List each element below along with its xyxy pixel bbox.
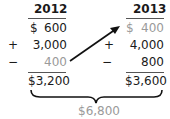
- combined-total: $6,800: [78, 104, 120, 118]
- carryover-arrow-icon: [70, 26, 120, 61]
- curly-brace-icon: [31, 90, 162, 103]
- diagram-lines: [0, 0, 170, 119]
